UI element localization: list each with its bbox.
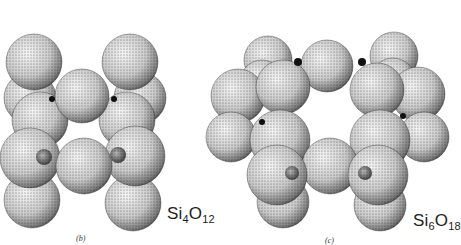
oxygen-sphere [348, 145, 408, 205]
oxygen-sphere [56, 138, 112, 194]
silicon-atom [110, 147, 126, 163]
panel-label-c: (c) [325, 236, 334, 245]
oxygen-sphere [256, 60, 310, 114]
formula-si6o18: Si6O18 [413, 211, 461, 232]
panel-c-si6o18-model [206, 32, 449, 231]
silicon-atom-hidden [259, 119, 265, 125]
silicon-atom [36, 149, 52, 165]
silicon-atom [285, 166, 299, 180]
silicon-atom-hidden [294, 58, 302, 66]
panel-label-b: (b) [76, 234, 85, 243]
silicon-atom-hidden [49, 96, 55, 102]
silicon-atom-hidden [358, 58, 366, 66]
oxygen-sphere [55, 69, 109, 123]
oxygen-sphere [350, 63, 404, 117]
silicon-atom [358, 166, 372, 180]
oxygen-sphere [6, 34, 62, 90]
silicon-atom-hidden [400, 113, 406, 119]
formula-si4o12: Si4O12 [167, 204, 215, 225]
silicon-atom-hidden [111, 96, 117, 102]
oxygen-sphere [206, 112, 256, 162]
oxygen-sphere [102, 34, 158, 90]
panel-b-si4o12-model [0, 34, 166, 231]
